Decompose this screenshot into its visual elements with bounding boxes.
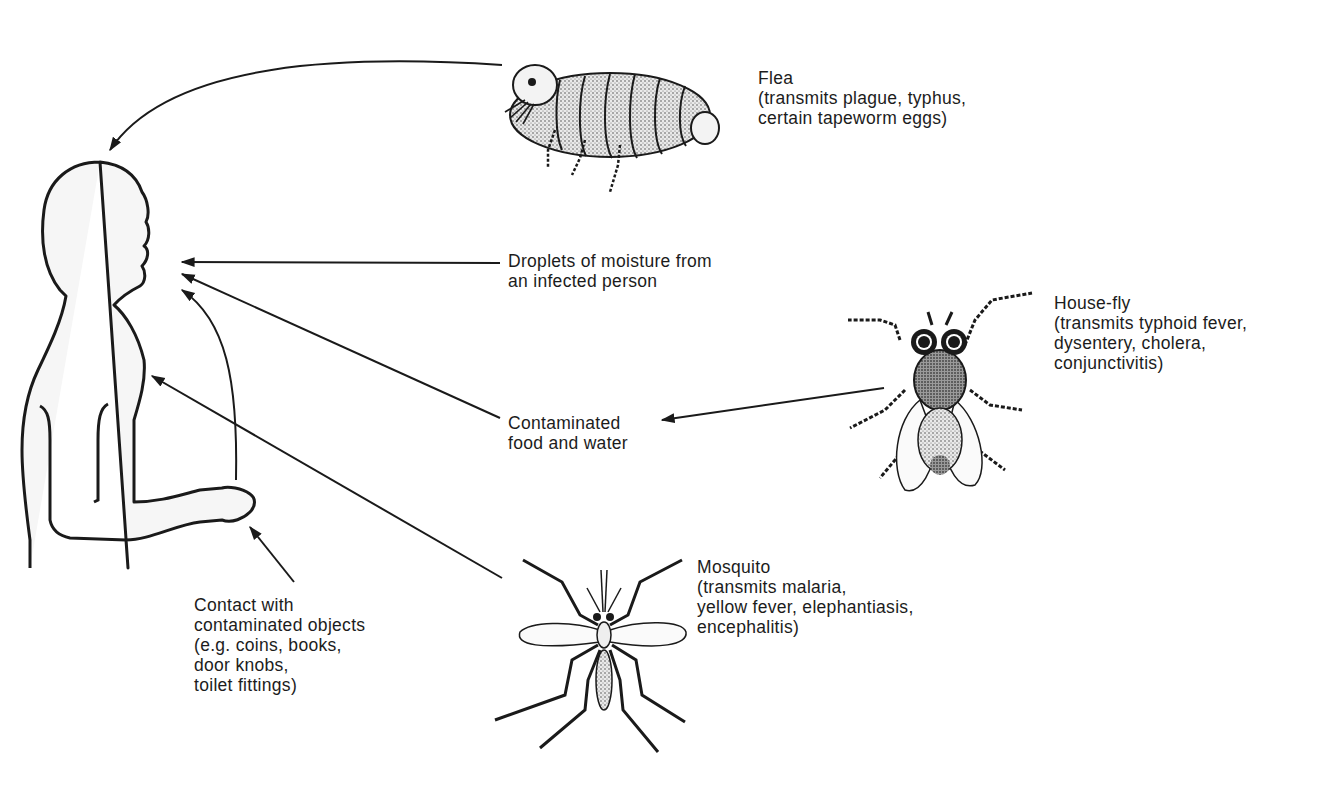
mosquito-line-2: yellow fever, elephantiasis,	[697, 597, 914, 617]
housefly-line-3: conjunctivitis)	[1054, 353, 1247, 373]
contact-line-2: contaminated objects	[194, 615, 365, 635]
droplets-label: Droplets of moisture from an infected pe…	[508, 251, 712, 291]
housefly-illustration	[848, 293, 1032, 491]
arrow-food-to-mouth	[182, 274, 500, 418]
housefly-line-2: dysentery, cholera,	[1054, 333, 1247, 353]
mosquito-label: Mosquito (transmits malaria, yellow feve…	[697, 557, 914, 637]
arrow-droplets-to-mouth	[182, 262, 500, 263]
food-water-label: Contaminated food and water	[508, 413, 628, 453]
flea-illustration	[505, 65, 719, 192]
flea-line-1: (transmits plague, typhus,	[758, 88, 966, 108]
mosquito-illustration	[495, 560, 686, 752]
arrow-contact-to-hand	[250, 527, 294, 582]
food-water-line-2: food and water	[508, 433, 628, 453]
droplets-line-2: an infected person	[508, 271, 712, 291]
arrow-flea-to-head	[110, 61, 502, 150]
mosquito-line-1: (transmits malaria,	[697, 577, 914, 597]
contact-line-4: door knobs,	[194, 655, 365, 675]
housefly-label: House-fly (transmits typhoid fever, dyse…	[1054, 293, 1247, 373]
human-silhouette	[22, 162, 255, 568]
mosquito-title: Mosquito	[697, 557, 914, 577]
mosquito-line-3: encephalitis)	[697, 617, 914, 637]
housefly-line-1: (transmits typhoid fever,	[1054, 313, 1247, 333]
contact-line-3: (e.g. coins, books,	[194, 635, 365, 655]
arrow-hand-to-mouth	[182, 290, 236, 480]
contact-line-1: Contact with	[194, 595, 365, 615]
transmission-diagram: Flea (transmits plague, typhus, certain …	[0, 0, 1318, 791]
flea-label: Flea (transmits plague, typhus, certain …	[758, 68, 966, 128]
arrow-housefly-to-food	[662, 388, 884, 420]
droplets-line-1: Droplets of moisture from	[508, 251, 712, 271]
flea-title: Flea	[758, 68, 966, 88]
food-water-line-1: Contaminated	[508, 413, 628, 433]
flea-line-2: certain tapeworm eggs)	[758, 108, 966, 128]
contact-line-5: toilet fittings)	[194, 675, 365, 695]
arrow-mosquito-to-chest	[152, 376, 502, 578]
contact-label: Contact with contaminated objects (e.g. …	[194, 595, 365, 695]
housefly-title: House-fly	[1054, 293, 1247, 313]
